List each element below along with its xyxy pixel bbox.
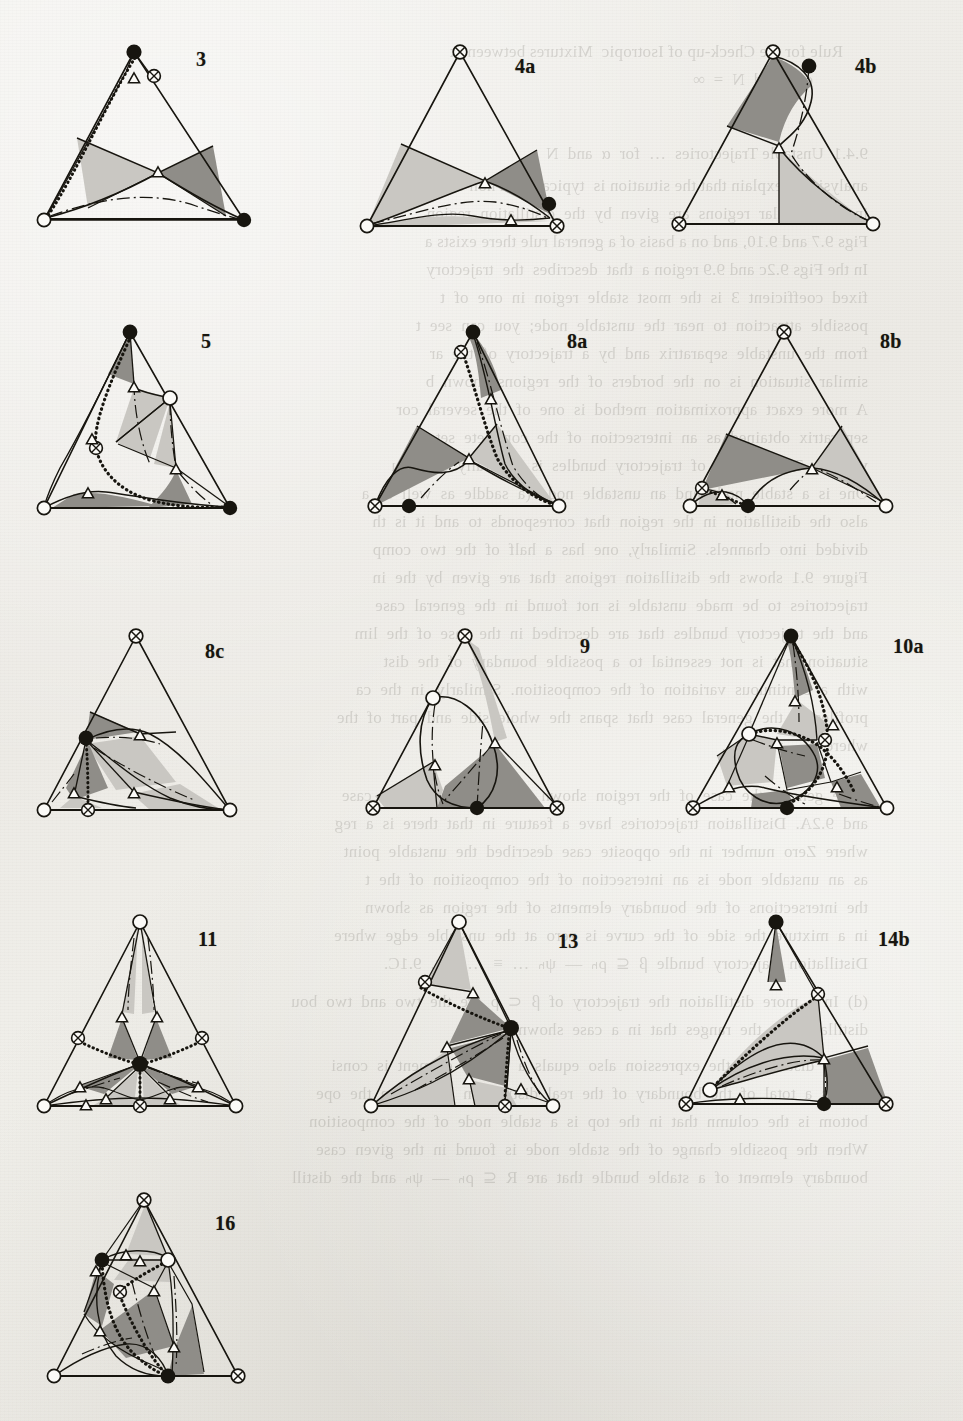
bleed-text-line: boundary element of a stable bundle that… — [292, 1164, 868, 1193]
figure-5 — [30, 318, 280, 536]
figure-8a-label: 8a — [567, 330, 588, 353]
figure-8c — [30, 622, 280, 840]
figure-4a-label: 4a — [515, 55, 536, 78]
figure-13-label: 13 — [558, 930, 579, 953]
bleed-text-line: as an unstable node is an intersection o… — [365, 866, 868, 895]
bleed-text-line: fixed coefficient 3 is the most stable r… — [440, 284, 868, 313]
figure-5-label: 5 — [201, 330, 211, 353]
figure-3-label: 3 — [196, 48, 206, 71]
bleed-text-line: where Zero number in the opposite case d… — [344, 838, 868, 867]
figure-8c-label: 8c — [205, 640, 224, 663]
bleed-text-line: Figure 9.1 shows the distillation region… — [372, 564, 868, 593]
figure-9-label: 9 — [580, 635, 590, 658]
figure-11-label: 11 — [198, 928, 218, 951]
figure-4b-label: 4b — [855, 55, 877, 78]
figure-14b-label: 14b — [878, 928, 910, 951]
figure-11 — [30, 908, 290, 1138]
figure-4b — [665, 38, 915, 256]
figure-8b-label: 8b — [880, 330, 902, 353]
bleed-text-line: divided into channels. Similarly, one ha… — [373, 536, 868, 565]
figure-10a-label: 10a — [893, 635, 924, 658]
figure-4a — [345, 38, 595, 256]
figure-16 — [40, 1186, 290, 1408]
figure-3 — [30, 38, 280, 256]
bleed-text-line: In the Figs 9.2c and 9.9 region a that d… — [426, 256, 868, 285]
figure-10a — [665, 622, 925, 840]
bleed-text-line: trajectories to be made unstable is not … — [375, 592, 868, 621]
bleed-text-line: When the possible change of the stable n… — [316, 1136, 868, 1165]
figure-16-label: 16 — [215, 1212, 236, 1235]
figure-9 — [355, 622, 605, 840]
